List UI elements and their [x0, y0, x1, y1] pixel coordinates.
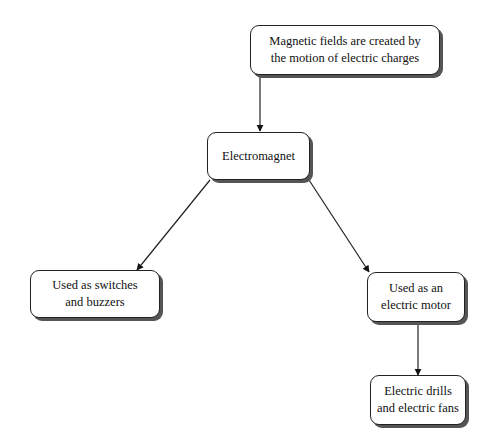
node-label: Electromagnet — [222, 148, 295, 165]
node-label: Used as an electric motor — [381, 280, 451, 314]
node-electric-motor: Used as an electric motor — [367, 272, 465, 322]
concept-map: Magnetic fields are created by the motio… — [0, 0, 500, 440]
node-electromagnet: Electromagnet — [207, 132, 310, 180]
edge-electromagnet-to-switches — [137, 180, 210, 270]
node-drills-fans: Electric drills and electric fans — [370, 375, 466, 425]
node-switches-buzzers: Used as switches and buzzers — [30, 270, 160, 318]
node-label: Used as switches and buzzers — [52, 277, 137, 311]
node-magnetic-fields: Magnetic fields are created by the motio… — [250, 25, 440, 75]
edge-electromagnet-to-motor — [309, 180, 369, 272]
node-label: Electric drills and electric fans — [377, 383, 459, 417]
node-label: Magnetic fields are created by the motio… — [269, 33, 420, 67]
